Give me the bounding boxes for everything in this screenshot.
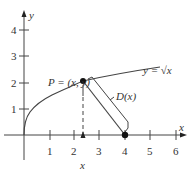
y-tick-label: 2 <box>11 77 17 89</box>
bracket-pointer <box>110 97 114 100</box>
x-marker-label: x <box>79 159 85 171</box>
y-axis-arrow-icon <box>22 10 27 17</box>
point-4-0 <box>122 132 128 138</box>
point-p-label: P = (x, y) <box>47 76 90 89</box>
x-tick-label: 4 <box>122 145 128 157</box>
distance-label: D(x) <box>115 90 136 103</box>
distance-diagram: 1 2 3 4 1 2 3 4 5 6 y x x P = (x, y) D(x… <box>0 0 189 173</box>
y-tick-label: 1 <box>11 103 17 115</box>
y-tick-label: 4 <box>11 24 17 36</box>
x-tick-label: 1 <box>47 145 53 157</box>
x-axis-label: x <box>178 121 184 133</box>
point-p-text: P = (x, y) <box>47 76 90 89</box>
x-axis-arrow-icon <box>180 133 187 138</box>
x-tick-label: 6 <box>173 145 179 157</box>
x-tick-label: 5 <box>147 145 153 157</box>
distance-bracket <box>88 77 128 132</box>
x-tick-label: 3 <box>96 145 102 157</box>
y-axis-label: y <box>28 9 34 21</box>
x-tick-label: 2 <box>71 145 77 157</box>
curve-label: y = √x <box>142 64 172 76</box>
y-tick-label: 3 <box>11 50 17 62</box>
